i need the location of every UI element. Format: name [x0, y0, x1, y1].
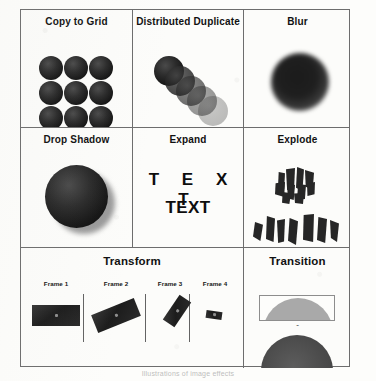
- transition-dome-wrap: [261, 335, 333, 368]
- transform-art: Frame 1 Frame 2 Frame 3: [21, 280, 243, 358]
- sphere: [89, 106, 113, 127]
- cell-drop-shadow: Drop Shadow: [21, 128, 132, 247]
- cell-title-explode: Explode: [244, 128, 351, 146]
- transform-rect: [163, 295, 191, 328]
- transform-frame-4: Frame 4: [195, 280, 235, 345]
- sphere: [64, 56, 88, 80]
- transform-frame-2-shape: [89, 287, 143, 345]
- figure-caption: Illustrations of image effects: [0, 370, 376, 381]
- sphere: [39, 81, 63, 105]
- cell-blur: Blur: [244, 10, 351, 127]
- cell-title-drop-shadow: Drop Shadow: [21, 128, 132, 146]
- transform-frame-1-label: Frame 1: [29, 280, 83, 287]
- transform-frame-4-shape: [195, 287, 235, 345]
- sphere: [198, 96, 228, 126]
- cell-title-expand: Expand: [133, 128, 243, 146]
- sphere: [64, 81, 88, 105]
- transform-rect: [206, 310, 223, 320]
- transform-rect-pip: [175, 309, 179, 313]
- sphere: [39, 106, 63, 127]
- sphere: [64, 106, 88, 127]
- cell-copy-to-grid: Copy to Grid: [21, 10, 132, 127]
- transform-rect-pip: [55, 314, 58, 317]
- cell-title-transform: Transform: [21, 248, 243, 267]
- cell-distributed-duplicate: Distributed Duplicate: [133, 10, 243, 127]
- transform-divider: [83, 294, 84, 342]
- shard: [282, 192, 291, 204]
- transform-frame-3-shape: [151, 287, 189, 345]
- cell-transition: Transition ˇ: [244, 248, 351, 368]
- shard: [330, 220, 339, 242]
- transform-divider: [145, 294, 146, 342]
- transition-clip-frame: [259, 295, 335, 321]
- sphere: [89, 81, 113, 105]
- shard: [253, 222, 263, 241]
- shard: [266, 216, 275, 242]
- transform-rect-pip: [114, 314, 118, 318]
- transform-frame-3-label: Frame 3: [151, 280, 189, 287]
- transform-rect: [32, 305, 80, 326]
- sphere: [45, 165, 108, 228]
- transition-dome-dark: [261, 335, 333, 368]
- cell-transform: Transform Frame 1 Frame 2: [21, 248, 243, 368]
- transform-frame-3: Frame 3: [151, 280, 189, 345]
- sphere: [39, 56, 63, 80]
- expand-plain-text: TEXT: [133, 198, 243, 218]
- effects-figure: Copy to Grid Distributed Duplicate: [20, 9, 350, 367]
- shard: [303, 214, 314, 242]
- transform-frame-2: Frame 2: [89, 280, 143, 345]
- transform-rect-pip: [212, 313, 215, 316]
- sphere-chain: [139, 48, 239, 127]
- transition-marker: ˇ: [244, 324, 351, 332]
- shard: [288, 218, 298, 245]
- transform-frame-2-label: Frame 2: [89, 280, 143, 287]
- cell-title-blur: Blur: [244, 10, 351, 28]
- cell-expand: Expand T E X T TEXT: [133, 128, 243, 247]
- sphere: [89, 56, 113, 80]
- shard: [294, 193, 304, 204]
- transform-frame-4-label: Frame 4: [195, 280, 235, 287]
- cell-title-copy-to-grid: Copy to Grid: [21, 10, 132, 28]
- cell-title-distributed-duplicate: Distributed Duplicate: [133, 10, 243, 28]
- shard: [277, 219, 285, 243]
- transform-frame-1-shape: [29, 287, 83, 345]
- shard: [317, 217, 327, 243]
- transition-dome-light: [263, 298, 333, 321]
- transform-frame-1: Frame 1: [29, 280, 83, 345]
- shard: [307, 182, 315, 196]
- sphere-grid: [39, 56, 113, 127]
- blurred-sphere: [271, 53, 329, 111]
- cell-title-transition: Transition: [244, 248, 351, 267]
- transform-rect: [91, 298, 141, 333]
- cell-explode: Explode: [244, 128, 351, 247]
